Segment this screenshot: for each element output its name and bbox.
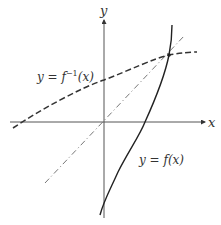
x-axis-label: x (208, 115, 216, 130)
y-axis-label: y (99, 3, 108, 18)
f-inverse-label-prefix: y = f (36, 70, 68, 84)
f-curve (100, 25, 172, 215)
intersection-point (167, 53, 171, 57)
f-inverse-label-superscript: −1 (66, 69, 78, 78)
f-inverse-curve (13, 52, 197, 128)
f-inverse-label-suffix: (x) (78, 70, 94, 84)
f-inverse-label: y = f−1(x) (36, 69, 94, 84)
f-label: y = f(x) (138, 153, 184, 167)
inverse-function-diagram: x y y = f−1(x) y = f(x) (0, 0, 221, 225)
